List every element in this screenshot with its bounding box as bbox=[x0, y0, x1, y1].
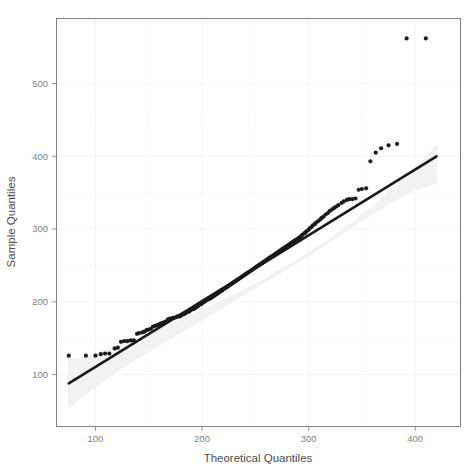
chart-canvas: 100200300400 100200300400500 Theoretical… bbox=[0, 0, 473, 472]
data-point bbox=[386, 143, 390, 147]
data-point bbox=[103, 351, 107, 355]
data-point bbox=[374, 151, 378, 155]
data-point bbox=[395, 142, 399, 146]
qq-plot-figure: 100200300400 100200300400500 Theoretical… bbox=[0, 0, 473, 472]
data-point bbox=[364, 186, 368, 190]
y-tick-label: 500 bbox=[32, 78, 48, 89]
x-tick-label: 100 bbox=[88, 433, 104, 444]
data-point bbox=[353, 196, 357, 200]
x-tick-label: 400 bbox=[407, 433, 423, 444]
data-point bbox=[424, 36, 428, 40]
data-point bbox=[379, 146, 383, 150]
y-tick-label: 200 bbox=[32, 296, 48, 307]
data-point bbox=[93, 354, 97, 358]
y-tick-label: 100 bbox=[32, 369, 48, 380]
x-axis-title: Theoretical Quantiles bbox=[204, 452, 313, 464]
data-point bbox=[405, 36, 409, 40]
data-point bbox=[67, 354, 71, 358]
x-tick-label: 300 bbox=[301, 433, 317, 444]
data-point bbox=[84, 354, 88, 358]
y-axis-title: Sample Quantiles bbox=[5, 176, 17, 267]
y-tick-label: 300 bbox=[32, 223, 48, 234]
data-point bbox=[116, 346, 120, 350]
data-point bbox=[132, 338, 136, 342]
x-tick-label: 200 bbox=[194, 433, 210, 444]
data-point bbox=[368, 159, 372, 163]
data-point bbox=[99, 352, 103, 356]
y-tick-label: 400 bbox=[32, 151, 48, 162]
data-point bbox=[107, 351, 111, 355]
data-point bbox=[360, 187, 364, 191]
